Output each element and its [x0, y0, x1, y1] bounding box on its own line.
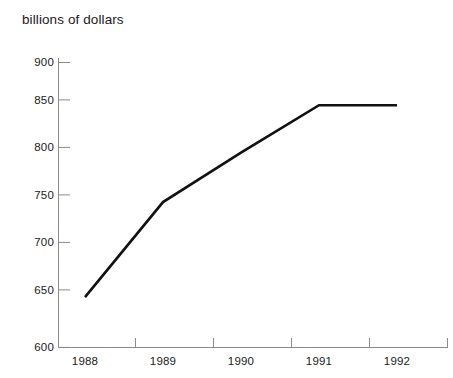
y-axis-label-750: 750: [20, 189, 54, 201]
y-axis-label-650: 650: [20, 284, 54, 296]
y-axis-ticks: [58, 63, 70, 348]
y-axis-label-900: 900: [20, 56, 54, 68]
line-chart-plot: [0, 0, 453, 378]
y-axis-label-800: 800: [20, 141, 54, 153]
x-axis-label-1988: 1988: [55, 355, 115, 367]
y-axis-label-850: 850: [20, 94, 54, 106]
x-axis-label-1992: 1992: [367, 355, 427, 367]
x-axis-label-1990: 1990: [211, 355, 271, 367]
y-axis-label-600: 600: [20, 341, 54, 353]
chart-figure: billions of dollars 900 850: [0, 0, 453, 378]
data-line-series: [85, 105, 397, 297]
x-axis-ticks: [59, 338, 448, 347]
y-axis-label-700: 700: [20, 236, 54, 248]
x-axis-label-1989: 1989: [133, 355, 193, 367]
x-axis-label-1991: 1991: [289, 355, 349, 367]
